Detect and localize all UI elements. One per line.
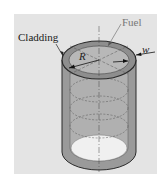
width-label: w (142, 43, 149, 55)
fuel-label: Fuel (122, 16, 142, 28)
cladding-label: Cladding (18, 31, 58, 43)
radius-label: R (79, 50, 86, 62)
